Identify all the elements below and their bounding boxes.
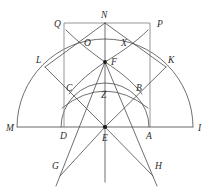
label-point-L: L — [35, 55, 41, 65]
vertex-dot-f — [103, 60, 107, 64]
label-point-K: K — [167, 55, 175, 65]
label-point-M: M — [5, 123, 15, 133]
label-point-C: C — [66, 83, 73, 93]
geometry-diagram: Q N P L K O X F C B Z M D E A I G H — [0, 0, 211, 195]
label-point-X: X — [120, 38, 128, 48]
label-point-P: P — [156, 19, 163, 29]
label-point-D: D — [59, 131, 67, 141]
label-point-E: E — [101, 133, 108, 143]
label-point-N: N — [100, 10, 108, 20]
label-point-F: F — [110, 57, 117, 67]
chord-l-to-e — [45, 67, 105, 127]
label-point-Q: Q — [54, 19, 61, 29]
chord-k-to-e — [105, 67, 166, 127]
label-point-G: G — [52, 161, 59, 171]
label-point-B: B — [136, 83, 142, 93]
ray-n-to-l — [45, 23, 105, 67]
label-point-A: A — [145, 131, 152, 141]
geometry-canvas: Q N P L K O X F C B Z M D E A I G H — [0, 0, 211, 195]
label-point-Z: Z — [101, 90, 107, 100]
label-point-O: O — [84, 38, 91, 48]
label-point-H: H — [154, 161, 163, 171]
vertex-dot-e — [103, 125, 107, 129]
label-point-I: I — [197, 123, 202, 133]
ray-f-to-g — [56, 62, 105, 186]
